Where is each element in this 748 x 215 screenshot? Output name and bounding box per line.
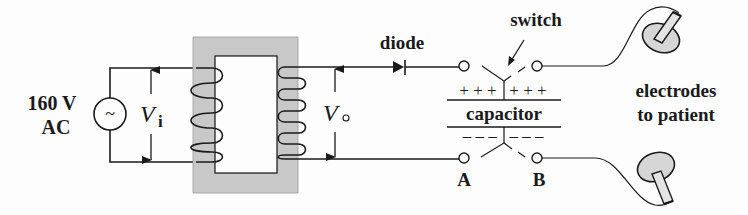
terminal-a-bottom (459, 153, 469, 163)
diode-icon (393, 60, 405, 75)
circuit-diagram: ~ 160 V AC V i V diode (0, 0, 748, 215)
switch-capacitor: switch + + + + + + capacitor – – – – – –… (447, 9, 562, 190)
electrode-top-icon (638, 12, 683, 58)
terminal-b-top (532, 61, 542, 71)
transformer-window (215, 56, 277, 173)
ac-source-icon: ~ (94, 98, 126, 130)
switch-pointer-head-icon (508, 56, 515, 66)
capacitor-positive-charges: + + + + + + (459, 81, 546, 100)
output-voltage-subscript-o (343, 115, 349, 121)
transformer (191, 37, 306, 193)
input-voltage-label: V (140, 101, 157, 127)
source-voltage-label: 160 V (27, 92, 77, 114)
source-type-label: AC (42, 116, 71, 138)
primary-top-wire (110, 68, 196, 98)
primary-bottom-wire (110, 130, 196, 162)
capacitor-negative-charges: – – – – – – (462, 126, 544, 145)
electrodes-label-line2: to patient (637, 104, 715, 125)
terminal-b-label: B (533, 169, 546, 190)
electrodes: electrodes to patient (542, 7, 716, 205)
diode-label: diode (380, 32, 424, 53)
ac-symbol: ~ (105, 104, 115, 124)
switch-gap-bottom (518, 152, 525, 157)
primary-circuit: ~ 160 V AC V i (27, 68, 196, 162)
terminal-b-bottom (532, 153, 542, 163)
terminal-a-top (459, 61, 469, 71)
output-voltage-label: V (323, 100, 340, 126)
terminal-a-label: A (457, 169, 471, 190)
capacitor-label: capacitor (466, 103, 543, 124)
switch-label: switch (510, 9, 562, 30)
switch-gap-top (518, 67, 525, 72)
switch-pointer-icon (511, 40, 524, 61)
input-voltage-subscript: i (158, 112, 163, 131)
electrodes-label-line1: electrodes (636, 80, 717, 101)
secondary-circuit: V diode (298, 32, 459, 159)
